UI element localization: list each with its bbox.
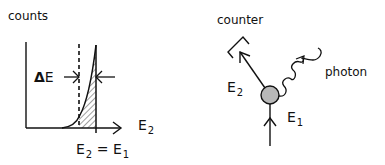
x-axis-label-var: E [138, 117, 147, 133]
hatched-region [79, 45, 96, 128]
peak-label-eq: = [97, 141, 109, 157]
outgoing-energy-sub: 2 [237, 87, 243, 98]
x-axis-label: E2 [138, 118, 154, 132]
diagram-svg [0, 0, 385, 165]
x-axis-label-sub: 2 [148, 125, 154, 136]
outgoing-energy-var: E [227, 79, 236, 95]
diagram-canvas: counts ΔE E2 E2 = E1 counter photon E2 E… [0, 0, 385, 165]
delta-var: E [45, 69, 54, 85]
outgoing-energy-label: E2 [227, 80, 243, 94]
counter-label: counter [217, 14, 263, 26]
peak-label-rhs-sub: 1 [123, 149, 129, 160]
outgoing-track [240, 52, 265, 88]
scattering-particle [261, 86, 279, 104]
peak-label: E2 = E1 [76, 142, 129, 156]
photon-label: photon [325, 66, 367, 78]
delta-symbol: Δ [34, 69, 45, 85]
photon-wave [279, 48, 321, 96]
delta-e-label: ΔE [34, 70, 54, 84]
peak-label-rhs: E [113, 141, 122, 157]
peak-label-lhs-sub: 2 [86, 149, 92, 160]
incoming-energy-sub: 1 [297, 117, 303, 128]
incoming-energy-var: E [287, 109, 296, 125]
peak-label-lhs: E [76, 141, 85, 157]
y-axis-label: counts [8, 10, 48, 22]
incoming-energy-label: E1 [287, 110, 303, 124]
spectrum-plot [26, 42, 121, 134]
